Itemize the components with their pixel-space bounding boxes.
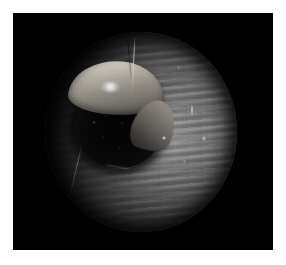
image-viewport (0, 0, 286, 265)
sensor-grain (45, 32, 237, 232)
black-video-frame (13, 13, 273, 250)
circular-field-of-view (45, 32, 237, 232)
